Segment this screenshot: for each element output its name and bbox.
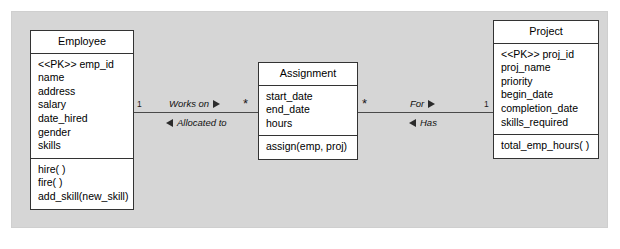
association-role-has: Has bbox=[409, 117, 437, 128]
operation-row: add_skill(new_skill) bbox=[38, 190, 133, 204]
class-box-project[interactable]: Project <<PK>> proj_id proj_name priorit… bbox=[493, 20, 599, 159]
association-role-for: For bbox=[410, 98, 435, 109]
triangle-left-icon bbox=[166, 119, 173, 127]
attribute-row: salary bbox=[38, 98, 133, 112]
attribute-row: gender bbox=[38, 126, 133, 140]
attribute-row: hours bbox=[266, 117, 357, 131]
diagram-canvas: Employee <<PK>> emp_id name address sala… bbox=[0, 0, 620, 249]
attribute-row: start_date bbox=[266, 90, 357, 104]
attribute-row: priority bbox=[501, 75, 598, 89]
operations-compartment-employee: hire( ) fire( ) add_skill(new_skill) bbox=[31, 159, 133, 209]
class-name-assignment: Assignment bbox=[259, 63, 357, 86]
attribute-row: completion_date bbox=[501, 102, 598, 116]
attribute-row: skills bbox=[38, 139, 133, 153]
attribute-row: <<PK>> emp_id bbox=[38, 58, 133, 72]
class-box-assignment[interactable]: Assignment start_date end_date hours ass… bbox=[258, 62, 358, 160]
operation-row: fire( ) bbox=[38, 176, 133, 190]
class-name-project: Project bbox=[494, 21, 598, 44]
multiplicity-employee-end: 1 bbox=[137, 99, 142, 109]
association-line-assignment-project bbox=[357, 112, 494, 113]
attributes-compartment-project: <<PK>> proj_id proj_name priority begin_… bbox=[494, 44, 598, 136]
association-role-label: Allocated to bbox=[177, 117, 227, 128]
operation-row: total_emp_hours( ) bbox=[501, 139, 598, 153]
operations-compartment-project: total_emp_hours( ) bbox=[494, 135, 598, 158]
triangle-right-icon bbox=[213, 100, 220, 108]
attribute-row: <<PK>> proj_id bbox=[501, 48, 598, 62]
attribute-row: skills_required bbox=[501, 116, 598, 130]
association-line-employee-assignment bbox=[134, 112, 259, 113]
attribute-row: begin_date bbox=[501, 88, 598, 102]
triangle-left-icon bbox=[409, 119, 416, 127]
operation-row: assign(emp, proj) bbox=[266, 140, 357, 154]
multiplicity-assignment-right-end: * bbox=[362, 96, 367, 111]
attribute-row: address bbox=[38, 85, 133, 99]
association-role-label: For bbox=[410, 98, 424, 109]
association-role-allocated-to: Allocated to bbox=[166, 117, 227, 128]
multiplicity-project-end: 1 bbox=[484, 99, 489, 109]
multiplicity-assignment-left-end: * bbox=[243, 96, 248, 111]
operation-row: hire( ) bbox=[38, 163, 133, 177]
association-role-label: Has bbox=[420, 117, 437, 128]
attribute-row: name bbox=[38, 71, 133, 85]
association-role-label: Works on bbox=[169, 98, 209, 109]
attribute-row: proj_name bbox=[501, 61, 598, 75]
attribute-row: end_date bbox=[266, 103, 357, 117]
operations-compartment-assignment: assign(emp, proj) bbox=[259, 136, 357, 159]
class-name-employee: Employee bbox=[31, 31, 133, 54]
triangle-right-icon bbox=[428, 100, 435, 108]
association-role-works-on: Works on bbox=[169, 98, 220, 109]
class-box-employee[interactable]: Employee <<PK>> emp_id name address sala… bbox=[30, 30, 134, 210]
attributes-compartment-employee: <<PK>> emp_id name address salary date_h… bbox=[31, 54, 133, 159]
attributes-compartment-assignment: start_date end_date hours bbox=[259, 86, 357, 137]
attribute-row: date_hired bbox=[38, 112, 133, 126]
